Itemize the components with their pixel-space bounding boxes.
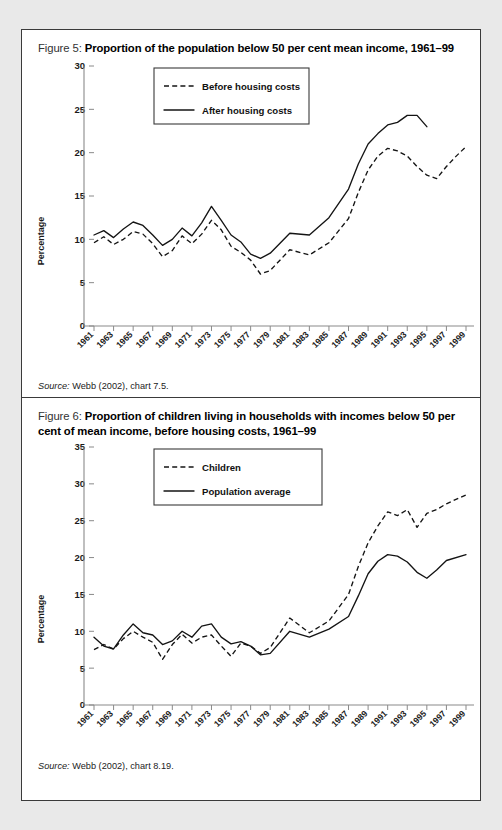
x-tick-label: 1961 bbox=[75, 708, 96, 729]
y-tick-label: 20 bbox=[74, 147, 85, 158]
figure-5-title: Proportion of the population below 50 pe… bbox=[85, 42, 454, 54]
x-tick-label: 1981 bbox=[271, 329, 292, 350]
figure-6-legend-label-0: Children bbox=[202, 462, 241, 473]
page-panel: Figure 5: Proportion of the population b… bbox=[21, 29, 481, 801]
x-tick-label: 1965 bbox=[114, 708, 135, 729]
y-tick-label: 5 bbox=[80, 277, 86, 288]
figure-6-legend: Children Population average bbox=[154, 449, 322, 505]
x-tick-label: 1971 bbox=[173, 708, 194, 729]
figure-5-legend-label-1: After housing costs bbox=[202, 105, 292, 116]
x-tick-label: 1995 bbox=[408, 329, 429, 350]
figure-5-x-ticks: 1961196319651967196919711973197519771979… bbox=[75, 326, 468, 350]
y-tick-label: 30 bbox=[74, 478, 85, 489]
series-line-1 bbox=[94, 115, 427, 258]
series-line-0 bbox=[94, 147, 466, 274]
x-tick-label: 1977 bbox=[231, 708, 252, 729]
figure-6-label: Figure 6: bbox=[38, 410, 82, 422]
x-tick-label: 1999 bbox=[447, 708, 468, 729]
figure-6-x-ticks: 1961196319651967196919711973197519771979… bbox=[75, 705, 468, 729]
x-tick-label: 1979 bbox=[251, 708, 272, 729]
y-tick-label: 10 bbox=[74, 234, 85, 245]
x-tick-label: 1989 bbox=[349, 329, 370, 350]
figure-5-label: Figure 5: bbox=[38, 42, 82, 54]
x-tick-label: 1997 bbox=[427, 329, 448, 350]
figure-5-chart: Percentage 051015202530 1961196319651967… bbox=[22, 56, 482, 381]
x-tick-label: 1975 bbox=[212, 708, 233, 729]
figure-6-block: Figure 6: Proportion of children living … bbox=[22, 398, 480, 777]
figure-6-series-group bbox=[94, 495, 466, 659]
figure-5-series-group bbox=[94, 115, 466, 274]
x-tick-label: 1991 bbox=[369, 329, 390, 350]
figure-5-svg: Percentage 051015202530 1961196319651967… bbox=[22, 56, 482, 381]
figure-6-y-axis-label: Percentage bbox=[36, 594, 46, 643]
x-tick-label: 1993 bbox=[388, 708, 409, 729]
series-line-1 bbox=[94, 554, 466, 654]
figure-5-legend-label-0: Before housing costs bbox=[202, 81, 300, 92]
x-tick-label: 1983 bbox=[290, 708, 311, 729]
y-tick-label: 20 bbox=[74, 552, 85, 563]
figure-6-chart: Percentage 05101520253035 19611963196519… bbox=[22, 439, 482, 761]
x-tick-label: 1975 bbox=[212, 329, 233, 350]
x-tick-label: 1987 bbox=[329, 708, 350, 729]
x-tick-label: 1989 bbox=[349, 708, 370, 729]
figure-6-source-text: Webb (2002), chart 8.19. bbox=[70, 761, 174, 771]
figure-5-source: Source: Webb (2002), chart 7.5. bbox=[22, 381, 480, 397]
x-tick-label: 1973 bbox=[192, 329, 213, 350]
figure-5-caption: Figure 5: Proportion of the population b… bbox=[22, 30, 480, 56]
y-tick-label: 10 bbox=[74, 625, 85, 636]
x-tick-label: 1997 bbox=[427, 708, 448, 729]
x-tick-label: 1969 bbox=[153, 329, 174, 350]
figure-6-source: Source: Webb (2002), chart 8.19. bbox=[22, 761, 480, 777]
x-tick-label: 1973 bbox=[192, 708, 213, 729]
x-tick-label: 1981 bbox=[271, 708, 292, 729]
figure-6-source-prefix: Source: bbox=[38, 761, 70, 771]
x-tick-label: 1999 bbox=[447, 329, 468, 350]
x-tick-label: 1991 bbox=[369, 708, 390, 729]
x-tick-label: 1979 bbox=[251, 329, 272, 350]
x-tick-label: 1963 bbox=[94, 329, 115, 350]
x-tick-label: 1967 bbox=[134, 708, 155, 729]
figure-5-source-text: Webb (2002), chart 7.5. bbox=[70, 381, 169, 391]
figure-5-source-prefix: Source: bbox=[38, 381, 70, 391]
x-tick-label: 1987 bbox=[329, 329, 350, 350]
x-tick-label: 1983 bbox=[290, 329, 311, 350]
x-tick-label: 1963 bbox=[94, 708, 115, 729]
y-tick-label: 5 bbox=[80, 662, 86, 673]
x-tick-label: 1965 bbox=[114, 329, 135, 350]
figure-6-legend-label-1: Population average bbox=[202, 486, 291, 497]
figure-6-caption: Figure 6: Proportion of children living … bbox=[22, 398, 480, 439]
x-tick-label: 1985 bbox=[310, 329, 331, 350]
x-tick-label: 1993 bbox=[388, 329, 409, 350]
x-tick-label: 1961 bbox=[75, 329, 96, 350]
x-tick-label: 1971 bbox=[173, 329, 194, 350]
figure-5-y-axis-label: Percentage bbox=[36, 217, 46, 266]
figure-6-svg: Percentage 05101520253035 19611963196519… bbox=[22, 439, 482, 761]
figure-5-legend: Before housing costs After housing costs bbox=[154, 68, 309, 124]
x-tick-label: 1969 bbox=[153, 708, 174, 729]
y-tick-label: 30 bbox=[74, 60, 85, 71]
x-tick-label: 1967 bbox=[134, 329, 155, 350]
x-tick-label: 1985 bbox=[310, 708, 331, 729]
x-tick-label: 1977 bbox=[231, 329, 252, 350]
x-tick-label: 1995 bbox=[408, 708, 429, 729]
figure-6-title: Proportion of children living in househo… bbox=[38, 410, 455, 437]
figure-5-block: Figure 5: Proportion of the population b… bbox=[22, 30, 480, 397]
